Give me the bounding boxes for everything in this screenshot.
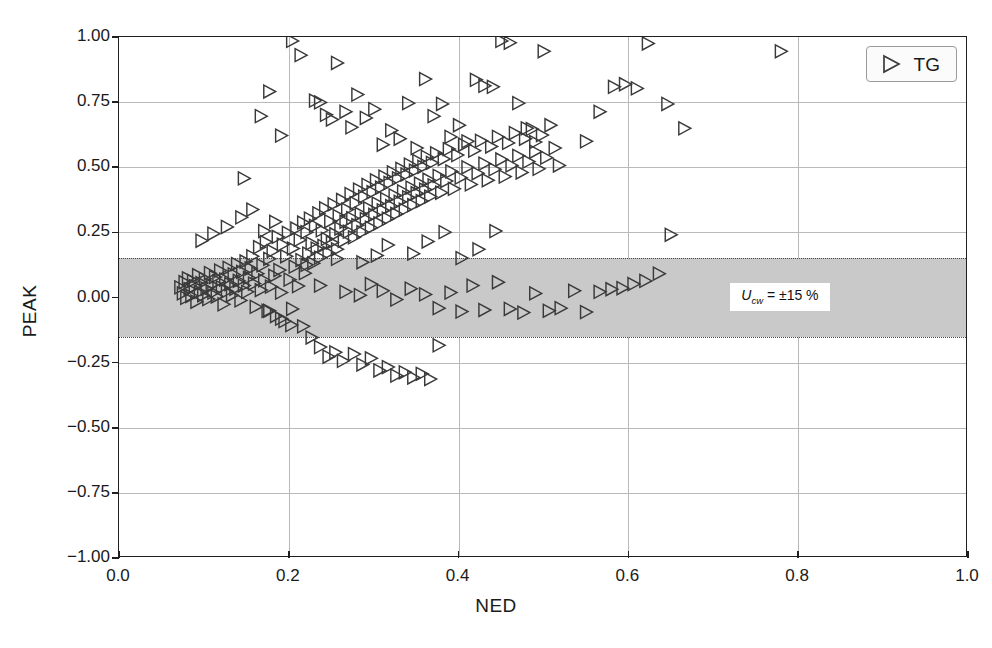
plot-area: Ucw = ±15 % TG — [118, 36, 967, 557]
scatter-marker — [294, 233, 306, 246]
band-annotation-label: Ucw = ±15 % — [730, 283, 829, 311]
scatter-marker — [352, 88, 364, 101]
scatter-marker — [530, 287, 542, 300]
scatter-marker — [337, 354, 349, 367]
scatter-marker — [555, 302, 567, 315]
y-tickmark — [112, 427, 119, 429]
scatter-marker — [594, 105, 606, 118]
scatter-marker — [482, 174, 494, 187]
scatter-marker — [445, 286, 457, 299]
scatter-marker — [287, 302, 299, 315]
scatter-marker — [293, 280, 305, 293]
y-tickmark — [112, 166, 119, 168]
scatter-marker — [581, 306, 593, 319]
legend-label-tg: TG — [914, 55, 940, 74]
scatter-marker — [428, 110, 440, 123]
scatter-marker — [347, 212, 359, 225]
y-tick-label: −0.50 — [40, 417, 110, 437]
scatter-marker — [549, 142, 561, 155]
scatter-marker — [617, 282, 629, 295]
scatter-marker — [433, 339, 445, 352]
y-tickmark — [112, 36, 119, 38]
scatter-marker — [238, 172, 250, 185]
chart-figure: PEAK NED 1.000.750.500.250.00−0.25−0.50−… — [0, 0, 992, 648]
scatter-marker — [369, 103, 381, 116]
scatter-marker — [357, 256, 369, 269]
scatter-marker — [513, 97, 525, 110]
scatter-marker — [631, 82, 643, 95]
scatter-marker — [538, 45, 550, 58]
scatter-marker — [499, 170, 511, 183]
scatter-marker — [642, 37, 654, 50]
y-tick-label: 0.75 — [40, 91, 110, 111]
x-tick-label: 0.6 — [587, 566, 667, 586]
scatter-marker — [255, 110, 267, 123]
scatter-marker — [456, 252, 468, 265]
scatter-marker — [391, 369, 403, 382]
scatter-marker — [374, 364, 386, 377]
scatter-marker — [609, 80, 621, 93]
scatter-marker — [391, 293, 403, 306]
scatter-marker — [454, 119, 466, 132]
scatter-points — [119, 37, 966, 556]
scatter-marker — [594, 285, 606, 298]
scatter-marker — [196, 234, 208, 247]
scatter-marker — [545, 119, 557, 132]
scatter-marker — [679, 122, 691, 135]
scatter-marker — [436, 186, 448, 199]
x-tick-label: 0.8 — [757, 566, 837, 586]
scatter-marker — [492, 276, 504, 289]
y-tick-label: −0.75 — [40, 482, 110, 502]
scatter-marker — [250, 300, 262, 313]
scatter-marker — [276, 129, 288, 142]
x-axis-tick-labels: 0.00.20.40.60.81.0 — [0, 566, 992, 596]
scatter-marker — [295, 49, 307, 62]
scatter-marker — [479, 304, 491, 317]
scatter-marker — [533, 162, 545, 175]
scatter-marker — [286, 319, 298, 332]
y-tick-label: 0.50 — [40, 156, 110, 176]
y-tickmark — [112, 232, 119, 234]
scatter-marker — [606, 283, 618, 296]
scatter-marker — [496, 37, 508, 47]
scatter-marker — [377, 138, 389, 151]
scatter-marker — [405, 282, 417, 295]
scatter-marker — [276, 286, 288, 299]
scatter-marker — [320, 202, 332, 215]
scatter-marker — [298, 320, 310, 333]
x-tickmark — [967, 551, 969, 558]
scatter-marker — [264, 85, 276, 98]
y-tick-label: 0.25 — [40, 221, 110, 241]
scatter-marker — [257, 259, 269, 272]
scatter-marker — [433, 302, 445, 315]
scatter-marker — [662, 97, 674, 110]
x-tick-label: 1.0 — [927, 566, 992, 586]
scatter-marker — [284, 273, 296, 286]
scatter-marker — [218, 298, 230, 311]
scatter-marker — [465, 178, 477, 191]
scatter-marker — [490, 225, 502, 238]
scatter-marker — [665, 228, 677, 241]
legend[interactable]: TG — [866, 46, 957, 82]
x-tick-label: 0.0 — [78, 566, 158, 586]
scatter-marker — [581, 135, 593, 148]
scatter-marker — [628, 278, 640, 291]
y-tick-label: 0.00 — [40, 287, 110, 307]
scatter-marker — [775, 45, 787, 58]
legend-marker-triangle-icon — [879, 53, 903, 75]
scatter-marker — [346, 121, 358, 134]
scatter-marker — [221, 220, 233, 233]
scatter-marker — [354, 289, 366, 302]
band-value: = ±15 % — [767, 287, 819, 303]
scatter-marker — [448, 182, 460, 195]
y-tickmark — [112, 101, 119, 103]
scatter-marker — [340, 105, 352, 118]
scatter-marker — [208, 227, 220, 240]
x-axis-title: NED — [0, 595, 992, 617]
scatter-marker — [332, 56, 344, 69]
scatter-marker — [422, 235, 434, 248]
scatter-marker — [653, 267, 665, 280]
y-axis-tick-labels: 1.000.750.500.250.00−0.25−0.50−0.75−1.00 — [38, 0, 110, 648]
scatter-marker — [420, 73, 432, 86]
x-tick-label: 0.4 — [418, 566, 498, 586]
